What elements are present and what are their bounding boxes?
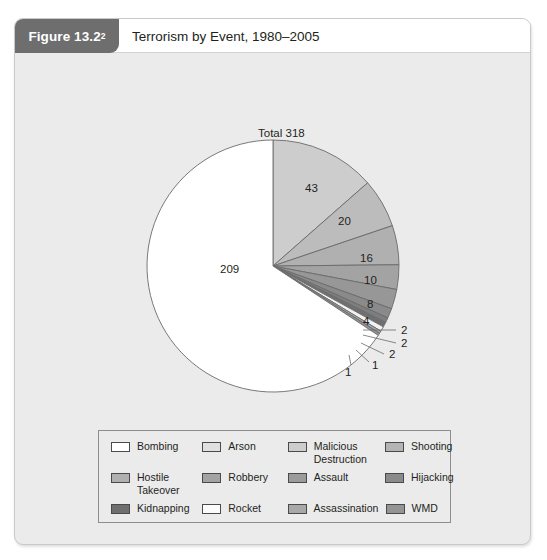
legend-label: WMD [412, 502, 438, 515]
pie-slice-value-label: 2 [389, 349, 395, 361]
legend-swatch [386, 504, 405, 514]
pie-chart-svg [15, 53, 532, 473]
figure-number-badge: Figure 13.22 [15, 19, 119, 53]
pie-slices [147, 140, 399, 392]
legend-label: Arson [228, 440, 255, 453]
legend-rows: BombingArsonMaliciousDestructionShooting… [99, 440, 450, 533]
legend-item: WMD [374, 502, 450, 515]
legend-item: HostileTakeover [99, 471, 190, 496]
pie-slice-value-label: 2 [401, 325, 407, 337]
figure-number-label: Figure 13.2 [28, 29, 100, 44]
legend-item: Rocket [190, 502, 275, 515]
legend-swatch [111, 504, 130, 514]
legend-swatch [202, 473, 221, 483]
legend-item: Assault [276, 471, 373, 484]
pie-slice-value-label: 4 [363, 316, 369, 328]
figure-screenshot: Figure 13.22 Terrorism by Event, 1980–20… [0, 0, 547, 560]
legend-item: Hijacking [373, 471, 450, 484]
chart-area: Total 318 209432016108422211 BombingArso… [15, 53, 530, 546]
legend-label: Assassination [314, 502, 379, 515]
pie-slice-value-label: 10 [364, 275, 377, 287]
legend-swatch [288, 473, 307, 483]
legend-swatch [385, 442, 404, 452]
legend-row: HostileTakeoverRobberyAssaultHijacking [99, 471, 450, 502]
legend-swatch [385, 473, 404, 483]
pie-slice-value-label: 209 [220, 264, 239, 276]
legend-label: Rocket [228, 502, 261, 515]
chart-legend: BombingArsonMaliciousDestructionShooting… [98, 430, 451, 523]
legend-item: Robbery [190, 471, 275, 484]
legend-label: Kidnapping [137, 502, 190, 515]
legend-label: Assault [314, 471, 348, 484]
legend-label: HostileTakeover [137, 471, 180, 496]
legend-swatch [202, 504, 221, 514]
legend-swatch [288, 442, 307, 452]
legend-item: Kidnapping [99, 502, 190, 515]
legend-swatch [111, 442, 130, 452]
pie-slice-value-label: 1 [345, 367, 351, 379]
legend-item: Assassination [276, 502, 374, 515]
legend-item: Shooting [373, 440, 450, 453]
legend-label: MaliciousDestruction [314, 440, 367, 465]
pie-slice-value-label: 16 [360, 253, 373, 265]
legend-label: Robbery [228, 471, 268, 484]
legend-item: MaliciousDestruction [276, 440, 373, 465]
legend-label: Hijacking [411, 471, 454, 484]
pie-chart: 209432016108422211 [15, 53, 532, 473]
pie-slice-value-label: 2 [401, 338, 407, 350]
legend-swatch [202, 442, 221, 452]
legend-label: Shooting [411, 440, 452, 453]
legend-item: Arson [190, 440, 275, 453]
legend-swatch [111, 473, 130, 483]
legend-row: BombingArsonMaliciousDestructionShooting [99, 440, 450, 471]
pie-slice-value-label: 20 [338, 216, 351, 228]
legend-row: KidnappingRocketAssassinationWMD [99, 502, 450, 533]
pie-slice-value-label: 8 [367, 299, 373, 311]
figure-header: Figure 13.22 Terrorism by Event, 1980–20… [15, 19, 530, 53]
pie-slice-value-label: 43 [305, 183, 318, 195]
pie-slice-value-label: 1 [372, 360, 378, 372]
figure-title: Terrorism by Event, 1980–2005 [132, 19, 320, 53]
legend-label: Bombing [137, 440, 178, 453]
legend-swatch [288, 504, 307, 514]
legend-item: Bombing [99, 440, 190, 453]
figure-card: Figure 13.22 Terrorism by Event, 1980–20… [14, 18, 531, 545]
